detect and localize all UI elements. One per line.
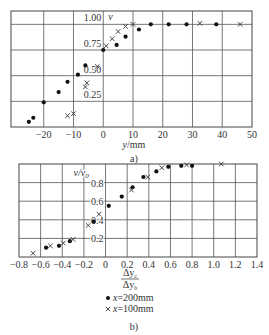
series-dot [27, 22, 219, 124]
x-tick-label: −0.8 [10, 259, 28, 270]
figure: −20−10010203040500.250.500.751.00vy/mma)… [0, 0, 269, 335]
data-point-cross [160, 165, 165, 170]
data-point-dot [166, 165, 170, 169]
x-tick-label: 0.4 [143, 259, 156, 270]
legend: x=200mmx=100mm [106, 292, 154, 314]
data-point-dot [42, 100, 46, 104]
x-tick-label: −0.2 [75, 259, 93, 270]
y-tick-label: 0.8 [91, 178, 104, 189]
x-tick-label: 40 [217, 129, 227, 140]
data-point-dot [101, 48, 105, 52]
data-point-cross [116, 29, 121, 34]
panel-label-a: a) [130, 153, 138, 165]
data-point-cross [61, 241, 66, 246]
x-tick-label: 1.2 [229, 259, 242, 270]
data-point-dot [115, 43, 119, 47]
data-point-cross [123, 24, 128, 29]
data-point-dot [83, 63, 87, 67]
x-axis-label-denominator: Δyb [123, 279, 137, 291]
legend-label: x=100mm [112, 303, 154, 314]
x-tick-label: 30 [187, 129, 197, 140]
data-point-cross [110, 36, 115, 41]
data-point-dot [120, 194, 124, 198]
data-point-dot [27, 120, 31, 124]
x-tick-label: −0.6 [32, 259, 50, 270]
x-tick-label: 0 [101, 129, 106, 140]
data-point-dot [184, 22, 188, 26]
plot-frame [19, 164, 257, 257]
data-point-dot [76, 73, 80, 77]
data-point-dot [137, 27, 141, 31]
legend-dot-icon [106, 296, 110, 300]
data-point-dot [57, 244, 61, 248]
data-point-dot [141, 175, 145, 179]
data-point-cross [48, 244, 53, 249]
data-point-dot [44, 246, 48, 250]
chart-a: −20−10010203040500.250.500.751.00vy/mma) [11, 11, 257, 165]
data-point-cross [65, 113, 70, 118]
panel-label-b: b) [130, 321, 138, 333]
y-tick-label: 0.25 [84, 89, 102, 100]
data-point-dot [31, 116, 35, 120]
data-point-cross [184, 163, 189, 168]
x-tick-label: 50 [247, 129, 257, 140]
data-point-cross [198, 21, 203, 26]
legend-label: x=200mm [112, 292, 154, 303]
x-tick-label: −0.4 [53, 259, 71, 270]
y-tick-label: 0.75 [84, 38, 102, 49]
x-tick-label: 20 [158, 129, 168, 140]
plot-frame [11, 11, 252, 127]
data-point-dot [149, 22, 153, 26]
data-point-dot [179, 164, 183, 168]
data-point-dot [167, 22, 171, 26]
series-dot [44, 164, 194, 250]
x-axis-label: y/mm [122, 139, 146, 150]
x-tick-label: 1.4 [251, 259, 264, 270]
data-point-dot [214, 22, 218, 26]
y-tick-label: 0.6 [91, 196, 104, 207]
chart-b: −0.8−0.6−0.4−0.200.20.40.60.81.01.21.40.… [10, 162, 263, 333]
data-point-cross [71, 237, 76, 242]
data-point-cross [145, 175, 150, 180]
x-tick-label: 0.6 [164, 259, 177, 270]
y-tick-label: 0.2 [91, 233, 104, 244]
x-tick-label: 0.8 [186, 259, 199, 270]
x-tick-label: 0 [103, 259, 108, 270]
data-point-dot [123, 35, 127, 39]
data-point-dot [57, 90, 61, 94]
data-point-cross [86, 223, 91, 228]
x-tick-label: −10 [66, 129, 82, 140]
y-axis-label: v [108, 11, 113, 22]
data-point-dot [65, 80, 69, 84]
data-point-cross [104, 44, 109, 49]
data-point-dot [154, 169, 158, 173]
x-tick-label: 1.0 [207, 259, 220, 270]
x-axis-label-numerator: Δyc [123, 267, 137, 279]
y-axis-label: v/v0 [74, 167, 90, 180]
y-tick-label: 1.00 [84, 12, 102, 23]
data-point-dot [92, 220, 96, 224]
data-point-cross [85, 81, 90, 86]
data-point-dot [107, 204, 111, 208]
data-point-dot [190, 164, 194, 168]
data-point-cross [31, 251, 36, 256]
x-tick-label: −20 [36, 129, 52, 140]
